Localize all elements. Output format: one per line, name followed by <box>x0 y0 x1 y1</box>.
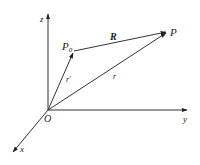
point-p-label: P <box>169 26 177 38</box>
origin-label: O <box>44 113 51 124</box>
vector-r-prime-label: r′ <box>66 75 71 84</box>
point-p0-label: P0 <box>61 40 73 54</box>
vector-R-label: R <box>109 31 117 42</box>
x-axis <box>13 110 48 152</box>
y-axis-label: y <box>182 114 187 124</box>
vector-r-label: r <box>113 72 117 81</box>
x-axis-label: x <box>19 144 24 154</box>
vector-diagram: z y x O P0 P R r′ r <box>0 0 200 165</box>
diagram-svg: z y x O P0 P R r′ r <box>0 0 200 165</box>
z-axis-label: z <box>39 14 44 24</box>
